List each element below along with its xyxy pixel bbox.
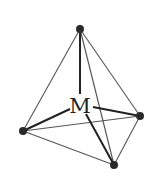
- atom-top: [76, 25, 84, 33]
- atom-bottom: [110, 161, 118, 169]
- metal-center-label: M: [69, 94, 91, 118]
- atom-left: [19, 127, 27, 135]
- tetrahedron-diagram: M: [0, 0, 166, 183]
- atom-right: [136, 112, 144, 120]
- bond-m-right: [93, 107, 140, 116]
- edge-left-bottom: [23, 131, 114, 165]
- edge-right-bottom: [114, 116, 140, 165]
